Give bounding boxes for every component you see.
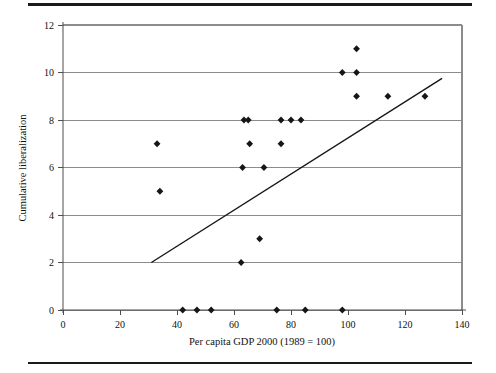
data-point bbox=[422, 93, 429, 100]
data-point bbox=[245, 117, 252, 124]
chart-svg: 024681012 020406080100120140 Per capita … bbox=[0, 8, 496, 353]
y-axis-ticks: 024681012 bbox=[44, 20, 63, 316]
x-tick-label-0: 0 bbox=[61, 319, 66, 330]
y-tick-label-12: 12 bbox=[44, 20, 54, 31]
data-point bbox=[194, 307, 201, 314]
data-point bbox=[339, 307, 346, 314]
x-tick-label-120: 120 bbox=[398, 319, 413, 330]
x-tick-label-100: 100 bbox=[341, 319, 356, 330]
x-tick-label-40: 40 bbox=[172, 319, 182, 330]
data-point bbox=[298, 117, 305, 124]
bottom-rule-divider bbox=[28, 362, 472, 364]
y-tick-label-10: 10 bbox=[44, 67, 54, 78]
data-point bbox=[157, 188, 164, 195]
data-points-group bbox=[154, 45, 429, 313]
x-axis-ticks: 020406080100120140 bbox=[61, 310, 470, 330]
data-point bbox=[256, 235, 263, 242]
data-point bbox=[302, 307, 309, 314]
data-point bbox=[154, 140, 161, 147]
y-tick-label-6: 6 bbox=[49, 162, 54, 173]
data-point bbox=[339, 69, 346, 76]
data-point bbox=[261, 164, 268, 171]
data-point bbox=[353, 93, 360, 100]
data-point bbox=[246, 140, 253, 147]
trendline-group bbox=[151, 78, 442, 262]
figure-container: 024681012 020406080100120140 Per capita … bbox=[0, 0, 496, 373]
x-axis-title: Per capita GDP 2000 (1989 = 100) bbox=[189, 336, 336, 348]
data-point bbox=[208, 307, 215, 314]
y-tick-label-4: 4 bbox=[49, 210, 54, 221]
x-tick-label-140: 140 bbox=[455, 319, 470, 330]
x-tick-label-80: 80 bbox=[286, 319, 296, 330]
data-point bbox=[238, 259, 245, 266]
data-point bbox=[278, 117, 285, 124]
data-point bbox=[239, 164, 246, 171]
scatter-plot: 024681012 020406080100120140 Per capita … bbox=[0, 8, 496, 353]
data-point bbox=[288, 117, 295, 124]
y-tick-label-8: 8 bbox=[49, 115, 54, 126]
data-point bbox=[353, 45, 360, 52]
data-point bbox=[353, 69, 360, 76]
data-point bbox=[278, 140, 285, 147]
y-tick-label-0: 0 bbox=[49, 305, 54, 316]
top-rule-divider bbox=[28, 3, 472, 6]
y-axis-title: Cumulative liberalization bbox=[17, 114, 28, 222]
data-point bbox=[273, 307, 280, 314]
y-tick-label-2: 2 bbox=[49, 257, 54, 268]
x-tick-label-20: 20 bbox=[115, 319, 125, 330]
x-tick-label-60: 60 bbox=[229, 319, 239, 330]
data-point bbox=[385, 93, 392, 100]
data-point bbox=[179, 307, 186, 314]
trend-line bbox=[151, 78, 442, 262]
